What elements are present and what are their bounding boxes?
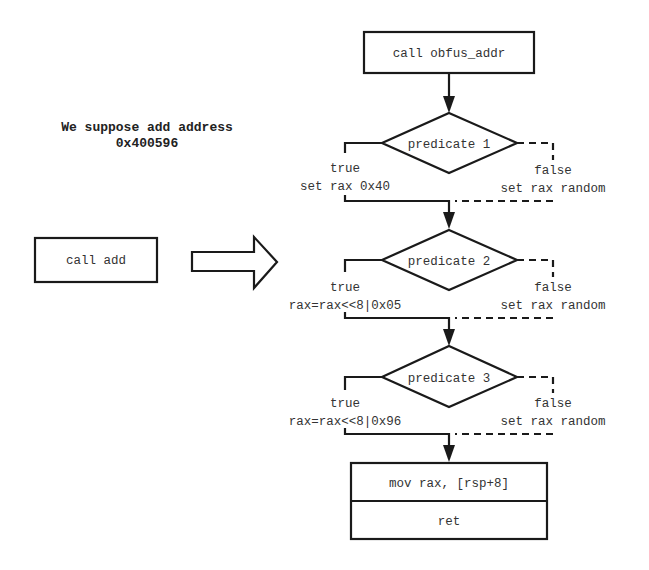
predicate-1-label: predicate 1 [408, 138, 491, 152]
predicate-2-node: predicate 2 [382, 230, 517, 290]
arrow-head-icon [443, 445, 455, 462]
original-call-box: call add [35, 238, 157, 282]
arrow-head-icon [443, 96, 455, 113]
predicate-1-true-label: true [330, 162, 360, 176]
predicate-2-true-label: true [330, 281, 360, 295]
predicate-1-false-action: set rax random [500, 182, 605, 196]
exit-instruction-2: ret [438, 515, 461, 529]
predicate-1-node: predicate 1 [382, 113, 517, 173]
predicate-3-node: predicate 3 [382, 346, 517, 407]
predicate-2-true-action: rax=rax<<8|0x05 [289, 299, 402, 313]
note-line-1: We suppose add address [61, 120, 233, 135]
predicate-1-true-action: set rax 0x40 [300, 180, 390, 194]
address-note: We suppose add address 0x400596 [61, 120, 233, 151]
arrow-head-icon [443, 329, 455, 346]
entry-label: call obfus_addr [393, 47, 506, 61]
predicate-3-true-label: true [330, 397, 360, 411]
exit-instruction-1: mov rax, [rsp+8] [389, 477, 509, 491]
predicate-2-false-action: set rax random [500, 299, 605, 313]
exit-block: mov rax, [rsp+8] ret [351, 463, 547, 539]
predicate-3-true-action: rax=rax<<8|0x96 [289, 415, 402, 429]
predicate-3-false-label: false [534, 397, 572, 411]
predicate-3-label: predicate 3 [408, 372, 491, 386]
predicate-3-false-action: set rax random [500, 415, 605, 429]
predicate-1-false-label: false [534, 164, 572, 178]
note-line-2: 0x400596 [116, 136, 179, 151]
entry-box: call obfus_addr [364, 32, 534, 73]
arrow-head-icon [443, 212, 455, 229]
obfuscation-diagram: We suppose add address 0x400596 call add… [0, 0, 649, 570]
original-call-label: call add [66, 254, 126, 268]
predicate-2-false-label: false [534, 281, 572, 295]
predicate-2-label: predicate 2 [408, 255, 491, 269]
transform-arrow-icon [192, 237, 277, 288]
